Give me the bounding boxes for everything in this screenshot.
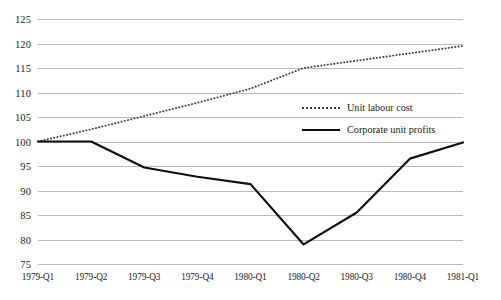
- x-tick-label-1981-q1: 1981-Q1: [431, 272, 495, 282]
- legend-item-corporate-unit-profits: Corporate unit profits: [302, 123, 435, 135]
- y-tick-label-110: 110: [0, 87, 31, 98]
- series-line-corporate-unit-profits: [38, 142, 463, 245]
- y-tick-label-125: 125: [0, 14, 31, 25]
- dotted-line-swatch-icon: [302, 104, 342, 112]
- y-tick-label-90: 90: [0, 185, 31, 196]
- legend-item-unit-labour-cost: Unit labour cost: [302, 101, 413, 113]
- y-tick-label-105: 105: [0, 112, 31, 123]
- line-chart-figure: 7580859095100105110115120125 1979-Q11979…: [0, 0, 501, 300]
- chart-series-layer: [38, 19, 463, 264]
- gridline-75: [38, 264, 463, 265]
- y-tick-label-115: 115: [0, 63, 31, 74]
- y-tick-label-95: 95: [0, 161, 31, 172]
- solid-line-swatch-icon: [302, 126, 342, 134]
- y-tick-label-120: 120: [0, 38, 31, 49]
- y-tick-label-75: 75: [0, 259, 31, 270]
- y-tick-label-80: 80: [0, 234, 31, 245]
- legend-label-corporate-unit-profits: Corporate unit profits: [347, 124, 435, 135]
- y-tick-label-85: 85: [0, 210, 31, 221]
- y-tick-label-100: 100: [0, 136, 31, 147]
- legend-label-unit-labour-cost: Unit labour cost: [347, 102, 413, 113]
